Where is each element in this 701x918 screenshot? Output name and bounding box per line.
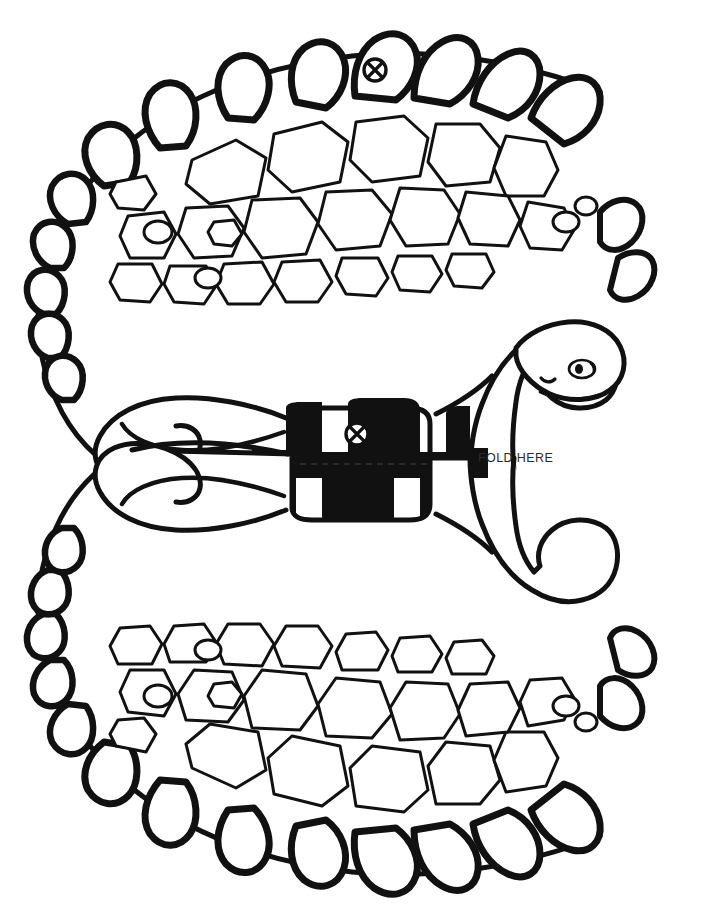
dinosaur-fold-template-artwork <box>0 0 701 918</box>
fold-here-label: FOLD HERE <box>478 452 553 465</box>
circle-x-mark-middle <box>346 423 368 445</box>
circle-x-mark-top <box>364 59 386 81</box>
top-eye-icon <box>569 360 595 378</box>
craft-template-page: FOLD HERE <box>0 0 701 918</box>
